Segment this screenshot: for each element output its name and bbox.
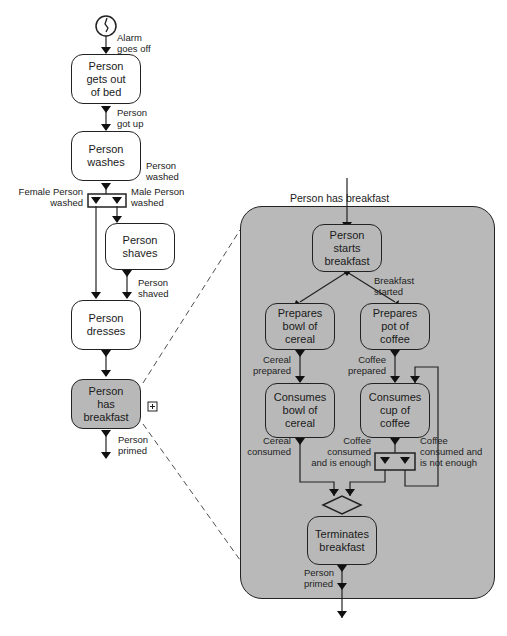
step-gets-out-of-bed[interactable]: Person gets out of bed [71,54,141,104]
event-shaved: Person shaved [138,277,169,299]
step-has-breakfast[interactable]: Person has breakfast [71,379,141,429]
event-coffee-prepared: Coffee prepared [335,354,386,376]
event-breakfast-started: Breakfast started [374,275,414,297]
event-female-washed: Female Person washed [5,186,83,208]
step-terminates-breakfast[interactable]: Terminates breakfast [307,516,377,565]
event-coffee-not-enough: Coffee consumed and is not enough [420,435,482,468]
step-shaves[interactable]: Person shaves [105,223,175,270]
event-alarm: Alarm goes off [117,32,151,54]
step-prepares-cereal[interactable]: Prepares bowl of cereal [265,303,335,350]
event-got-up: Person got up [117,107,147,129]
event-person-primed: Person primed [304,567,334,589]
event-male-washed: Male Person washed [131,186,184,208]
event-primed: Person primed [118,434,148,456]
step-washes[interactable]: Person washes [71,131,141,181]
step-prepares-coffee[interactable]: Prepares pot of coffee [360,303,430,350]
event-cereal-prepared: Cereal prepared [245,354,291,376]
event-coffee-enough: Coffee consumed and is enough [300,435,371,468]
subprocess-title: Person has breakfast [290,193,389,204]
step-consumes-coffee[interactable]: Consumes cup of coffee [360,383,430,438]
event-washed: Person washed [146,160,179,182]
step-starts-breakfast[interactable]: Person starts breakfast [312,224,382,272]
event-cereal-consumed: Cereal consumed [243,435,291,457]
step-consumes-cereal[interactable]: Consumes bowl of cereal [265,383,335,438]
step-dresses[interactable]: Person dresses [71,300,141,350]
